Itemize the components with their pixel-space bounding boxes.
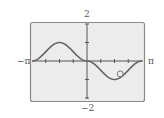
- function-plot: [0, 0, 164, 118]
